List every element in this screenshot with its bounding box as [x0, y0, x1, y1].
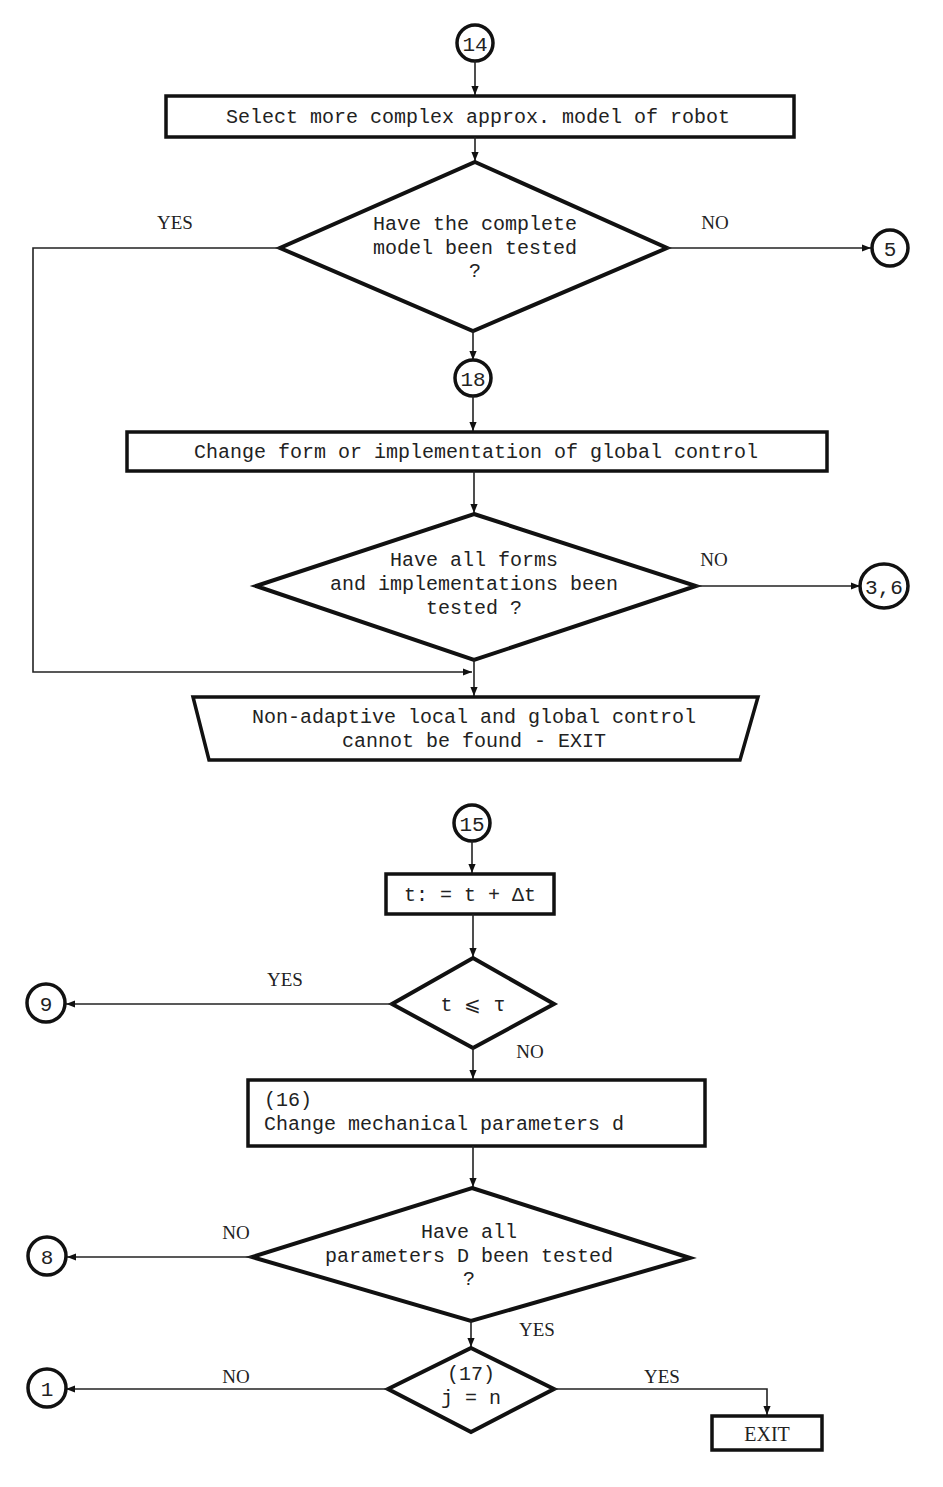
exit-box: EXIT	[712, 1416, 822, 1450]
svg-text:Change mechanical parameters d: Change mechanical parameters d	[264, 1113, 624, 1136]
label-yes-all-params: YES	[519, 1319, 555, 1340]
svg-text:Have the complete: Have the complete	[373, 213, 577, 236]
svg-text:?: ?	[463, 1268, 475, 1291]
svg-text:5: 5	[884, 239, 897, 262]
svg-text:Have all forms: Have all forms	[390, 549, 558, 572]
svg-text:8: 8	[41, 1247, 54, 1270]
label-no-j: NO	[222, 1366, 249, 1387]
svg-text:t ⩽ τ: t ⩽ τ	[440, 994, 505, 1017]
svg-text:(16): (16)	[264, 1089, 312, 1112]
decision-j-equals-n: (17) j = n	[388, 1348, 554, 1432]
svg-text:14: 14	[462, 34, 487, 57]
svg-text:3,6: 3,6	[865, 577, 903, 600]
connector-18: 18	[455, 360, 491, 396]
connector-1: 1	[28, 1369, 66, 1407]
process-time-step: t: = t + Δt	[386, 874, 554, 914]
connector-5: 5	[872, 230, 908, 266]
process-change-form: Change form or implementation of global …	[127, 432, 827, 471]
svg-text:Non-adaptive local and global: Non-adaptive local and global control	[252, 706, 696, 729]
decision-all-forms: Have all forms and implementations been …	[256, 514, 696, 660]
svg-text:tested ?: tested ?	[426, 597, 522, 620]
connector-9: 9	[27, 984, 65, 1022]
svg-text:?: ?	[469, 260, 481, 283]
label-no-complete: NO	[701, 212, 728, 233]
svg-text:cannot be found - EXIT: cannot be found - EXIT	[342, 730, 606, 753]
flowchart-canvas: 14 Select more complex approx. model of …	[0, 0, 943, 1487]
svg-text:Change form or implementation: Change form or implementation of global …	[194, 441, 758, 464]
svg-text:model been tested: model been tested	[373, 237, 577, 260]
decision-all-params: Have all parameters D been tested ?	[252, 1188, 690, 1321]
svg-text:(17): (17)	[447, 1363, 495, 1386]
label-no-time: NO	[516, 1041, 543, 1062]
svg-text:Select more complex approx. mo: Select more complex approx. model of rob…	[226, 106, 730, 129]
connector-14: 14	[457, 25, 493, 61]
svg-text:j = n: j = n	[441, 1387, 501, 1410]
svg-text:18: 18	[460, 369, 485, 392]
label-no-all-params: NO	[222, 1222, 249, 1243]
svg-text:EXIT: EXIT	[744, 1423, 790, 1445]
decision-complete-model: Have the complete model been tested ?	[280, 162, 667, 331]
svg-text:and implementations been: and implementations been	[330, 573, 618, 596]
label-yes-j: YES	[644, 1366, 680, 1387]
connector-15: 15	[454, 805, 490, 841]
terminal-nonadaptive-exit: Non-adaptive local and global control ca…	[193, 697, 758, 760]
svg-text:15: 15	[459, 814, 484, 837]
connector-3-6: 3,6	[860, 564, 908, 608]
svg-text:parameters D been tested: parameters D been tested	[325, 1245, 613, 1268]
connector-8: 8	[28, 1237, 66, 1275]
label-no-all-forms: NO	[700, 549, 727, 570]
label-yes-complete: YES	[157, 212, 193, 233]
label-yes-time: YES	[267, 969, 303, 990]
decision-time: t ⩽ τ	[392, 958, 554, 1048]
svg-text:1: 1	[41, 1379, 54, 1402]
process-change-params: (16) Change mechanical parameters d	[248, 1080, 705, 1146]
svg-text:Have all: Have all	[421, 1221, 517, 1244]
svg-text:9: 9	[40, 994, 53, 1017]
arrow-yes-to-exit	[554, 1389, 767, 1415]
process-select-model: Select more complex approx. model of rob…	[166, 96, 794, 137]
svg-text:t: = t + Δt: t: = t + Δt	[404, 884, 536, 907]
